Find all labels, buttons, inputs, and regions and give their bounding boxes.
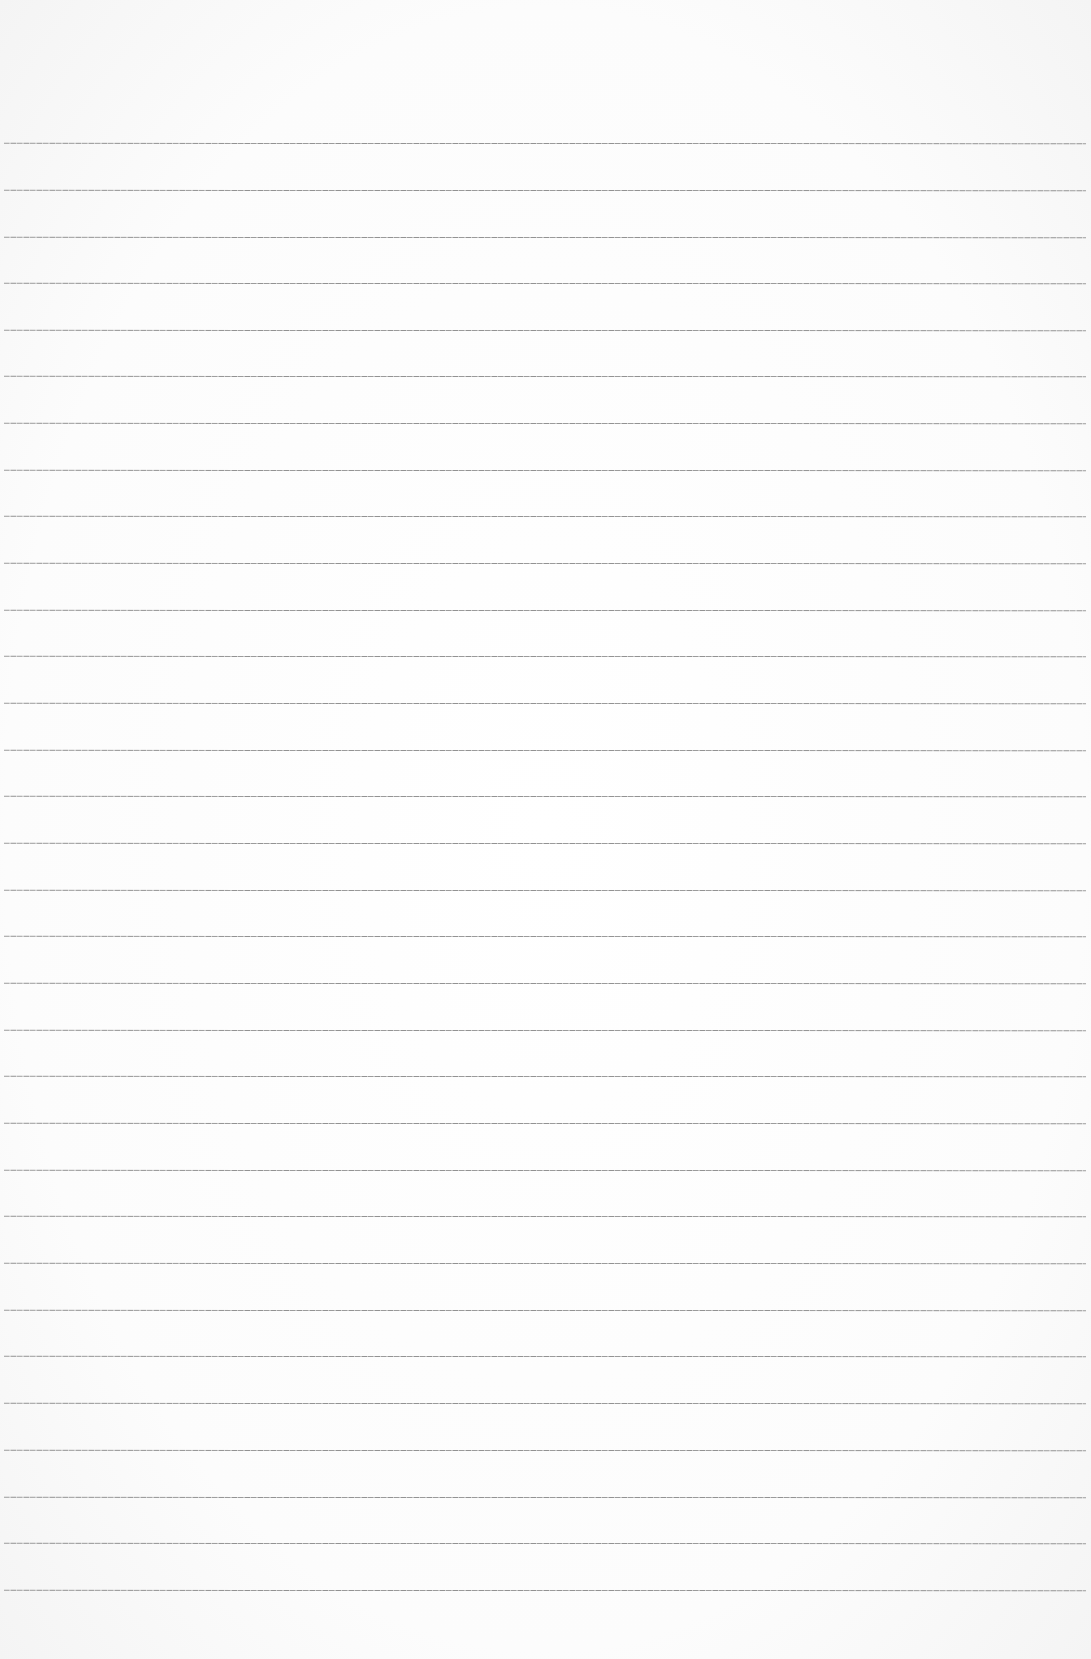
ruled-line (4, 983, 1086, 984)
ruled-line (4, 750, 1086, 751)
ruled-line (4, 656, 1086, 657)
ruled-line (4, 1076, 1086, 1077)
ruled-line (4, 1263, 1086, 1264)
ruled-line (4, 796, 1086, 797)
ruled-line (4, 890, 1086, 891)
ruled-line (4, 1310, 1086, 1311)
ruled-line (4, 1450, 1086, 1451)
ruled-line (4, 423, 1086, 424)
ruled-paper-sheet (0, 0, 1091, 1659)
ruled-line (4, 470, 1086, 471)
ruled-line (4, 563, 1086, 564)
ruled-line (4, 1216, 1086, 1217)
ruled-line (4, 1497, 1086, 1498)
ruled-line (4, 516, 1086, 517)
ruled-line (4, 1590, 1086, 1591)
ruled-line (4, 1356, 1086, 1357)
ruled-line (4, 843, 1086, 844)
ruled-line (4, 1543, 1086, 1544)
ruled-line (4, 376, 1086, 377)
ruled-line (4, 1123, 1086, 1124)
ruled-line (4, 1030, 1086, 1031)
ruled-line (4, 283, 1086, 284)
ruled-line (4, 936, 1086, 937)
ruled-line (4, 1170, 1086, 1171)
ruled-line (4, 610, 1086, 611)
ruled-line (4, 143, 1086, 144)
ruled-line (4, 190, 1086, 191)
ruled-line (4, 237, 1086, 238)
ruled-line (4, 1403, 1086, 1404)
ruled-line (4, 703, 1086, 704)
ruled-line (4, 330, 1086, 331)
